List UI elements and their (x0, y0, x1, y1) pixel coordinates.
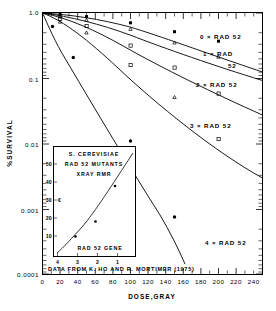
data-point-marker (129, 64, 132, 67)
inset-y-axis-symbol: € (58, 197, 61, 203)
x-tick-label: 180 (195, 278, 207, 285)
series-label-3x: 3 × RAD 52 (190, 122, 232, 129)
inset-panel: S. CEREVISIAE RAD 52 MUTANTS XRAY RMR 50… (46, 147, 136, 266)
inset-data-point (114, 185, 117, 188)
series-label-1x-line2: 52 (228, 62, 237, 69)
inset-data-point (94, 220, 97, 223)
inset-title-line1: S. CEREVISIAE (69, 151, 119, 157)
y-tick-label: 0.1 (29, 76, 39, 83)
inset-title-line2: RAD 52 MUTANTS (65, 161, 123, 167)
x-tick-label: 240 (248, 278, 260, 285)
data-point-marker (217, 138, 220, 141)
inset-y-tick-label: 40 (46, 179, 52, 185)
inset-x-tick-label: 2 (96, 259, 99, 265)
data-point-marker (173, 66, 176, 69)
y-tick-label: 0.0001 (17, 271, 39, 278)
x-tick-label: 100 (125, 278, 137, 285)
inset-x-tick-label: 1 (116, 259, 119, 265)
inset-title-line3: XRAY RMR (77, 171, 112, 177)
inset-y-tick-label: 50 (46, 161, 52, 167)
x-tick-label: 0 (41, 278, 45, 285)
data-point-marker (129, 139, 132, 142)
data-point-marker (72, 56, 75, 59)
series-label-0x: 0 × RAD 52 (200, 33, 242, 40)
y-axis-right-ticks (256, 13, 263, 274)
data-point-marker (173, 215, 176, 218)
x-axis-title: DOSE,GRAY (128, 293, 176, 301)
x-tick-label: 40 (74, 278, 82, 285)
chart-canvas: 1.0 0.1 0.01 0.001 0.0001 (0, 0, 276, 311)
x-tick-label: 60 (91, 278, 99, 285)
data-point-marker (217, 40, 220, 43)
series-label-4x: 4 × RAD 52 (205, 239, 247, 246)
inset-data-point (74, 235, 77, 238)
data-point-marker (173, 96, 176, 99)
data-point-marker (129, 44, 132, 47)
data-point-marker (173, 30, 176, 33)
data-point-marker (51, 25, 54, 28)
data-point-marker (85, 31, 88, 34)
x-tick-label: 160 (177, 278, 189, 285)
y-axis-title: %SURVIVAL (6, 119, 13, 166)
inset-x-tick-label: 4 (56, 259, 59, 265)
inset-y-tick-label: 10 (46, 233, 52, 239)
series-label-2x: 2 × RAD 52 (196, 81, 238, 88)
y-tick-label: 0.001 (21, 207, 39, 214)
y-tick-label: 0.01 (25, 141, 39, 148)
y-tick-label: 1.0 (29, 9, 39, 16)
data-point-marker (85, 18, 88, 21)
series-label-1x-line1: 1 × RAD (203, 50, 233, 57)
inset-x-tick-label: 3 (76, 259, 79, 265)
x-tick-label: 80 (109, 278, 117, 285)
x-tick-label: 120 (142, 278, 154, 285)
x-tick-label: 200 (213, 278, 225, 285)
x-axis-tick-labels: 0 20 40 60 80 100 120 140 160 180 200 22… (41, 278, 260, 285)
x-tick-label: 20 (56, 278, 64, 285)
inset-y-tick-label: 30 (46, 197, 52, 203)
y-axis-tick-labels: 1.0 0.1 0.01 0.001 0.0001 (17, 9, 39, 278)
data-point-marker (129, 21, 132, 24)
x-tick-label: 140 (160, 278, 172, 285)
figure-caption: DATA FROM K. HO AND R. MORTIMER (1975) (48, 266, 195, 272)
inset-x-axis-title: RAD 52 GENE (77, 245, 122, 251)
inset-y-tick-label: 20 (46, 215, 52, 221)
x-tick-label: 220 (230, 278, 242, 285)
figure-root: 1.0 0.1 0.01 0.001 0.0001 (0, 0, 276, 311)
